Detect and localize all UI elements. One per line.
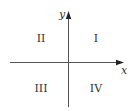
coordinate-plane: y x II I III IV bbox=[0, 0, 134, 111]
quadrant-label-ii: II bbox=[37, 32, 46, 45]
y-axis-label: y bbox=[58, 8, 66, 21]
quadrant-label-i: I bbox=[94, 32, 98, 45]
y-axis-arrow-icon bbox=[66, 11, 71, 19]
x-axis-label: x bbox=[121, 64, 128, 77]
quadrant-label-iii: III bbox=[34, 82, 47, 95]
quadrant-label-iv: IV bbox=[90, 82, 103, 95]
